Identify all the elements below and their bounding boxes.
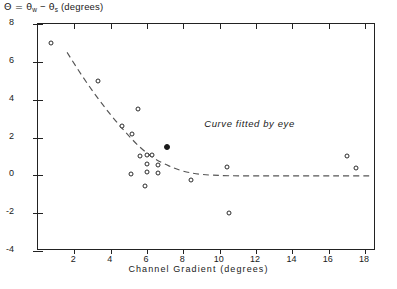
y-axis-tick-inner — [38, 62, 43, 63]
fitted-curve-annotation: Curve fitted by eye — [204, 118, 295, 129]
data-point — [344, 154, 349, 159]
x-axis-tick-top — [256, 24, 257, 29]
y-axis-tick-inner — [38, 24, 43, 25]
data-point — [164, 144, 170, 150]
data-point — [143, 183, 148, 188]
y-axis-tick-label: 0 — [0, 168, 14, 178]
data-point — [145, 161, 150, 166]
data-point — [226, 211, 231, 216]
x-axis-tick-label: 16 — [317, 254, 339, 264]
data-point — [188, 178, 193, 183]
data-point — [137, 154, 142, 159]
x-axis-label: Channel Gradient (degrees) — [0, 264, 397, 274]
x-axis-tick-top — [365, 24, 366, 29]
x-axis-tick-label: 18 — [353, 254, 375, 264]
fitted-curve — [38, 24, 376, 251]
x-axis-tick-label: 8 — [171, 254, 193, 264]
x-axis-tick-top — [147, 24, 148, 29]
y-axis-tick-inner — [38, 138, 43, 139]
data-point — [48, 40, 53, 45]
x-axis-tick-top — [183, 24, 184, 29]
x-axis-tick-label: 14 — [280, 254, 302, 264]
data-point — [95, 78, 100, 83]
y-axis-tick-label: 4 — [0, 93, 14, 103]
y-axis-label-theta-cap: Θ = — [4, 1, 26, 12]
y-axis-tick-inner — [38, 100, 43, 101]
data-point — [145, 152, 150, 157]
data-point — [130, 131, 135, 136]
y-axis-tick-inner — [38, 251, 43, 252]
x-axis-tick-top — [220, 24, 221, 29]
data-point — [354, 165, 359, 170]
y-axis-label-minus: − — [37, 1, 48, 12]
plot-frame — [37, 23, 375, 250]
x-axis-tick-label: 4 — [99, 254, 121, 264]
x-axis-tick-label: 2 — [62, 254, 84, 264]
data-point — [135, 107, 140, 112]
y-axis-tick-inner — [38, 213, 43, 214]
y-axis-tick-label: 6 — [0, 55, 14, 65]
y-axis-tick-label: 8 — [0, 17, 14, 27]
data-point — [128, 172, 133, 177]
x-axis-tick-top — [74, 24, 75, 29]
chart-root: Θ = θw − θs (degrees) Channel Gradient (… — [0, 0, 397, 289]
data-point — [145, 170, 150, 175]
x-axis-tick-top — [111, 24, 112, 29]
y-axis-tick-label: 2 — [0, 131, 14, 141]
y-axis-tick-label: -2 — [0, 206, 14, 216]
x-axis-tick-label: 6 — [135, 254, 157, 264]
y-axis-tick-label: -4 — [0, 244, 14, 254]
y-axis-label-units: (degrees) — [58, 1, 103, 12]
data-point — [119, 124, 124, 129]
data-point — [155, 162, 160, 167]
y-axis-label: Θ = θw − θs (degrees) — [4, 1, 103, 13]
data-point — [150, 153, 155, 158]
x-axis-tick-label: 10 — [208, 254, 230, 264]
data-point — [155, 171, 160, 176]
x-axis-tick-top — [292, 24, 293, 29]
data-point — [224, 164, 229, 169]
y-axis-tick-inner — [38, 175, 43, 176]
x-axis-tick-label: 12 — [244, 254, 266, 264]
x-axis-tick-top — [329, 24, 330, 29]
